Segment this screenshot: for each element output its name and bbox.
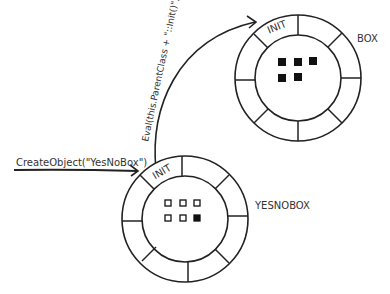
box-name-label: BOX (357, 33, 378, 44)
yesnobox-object: INIT (122, 156, 248, 282)
diagram-canvas: CreateObject("YesNoBox") Eval(this.Paren… (0, 0, 390, 294)
box-object: INIT (235, 15, 361, 141)
yesnobox-name-label: YESNOBOX (254, 200, 310, 211)
entry-call-label: CreateObject("YesNoBox") (16, 157, 147, 168)
parent-call-label: Eval(this.ParentClass + "::Init()") (140, 0, 180, 142)
